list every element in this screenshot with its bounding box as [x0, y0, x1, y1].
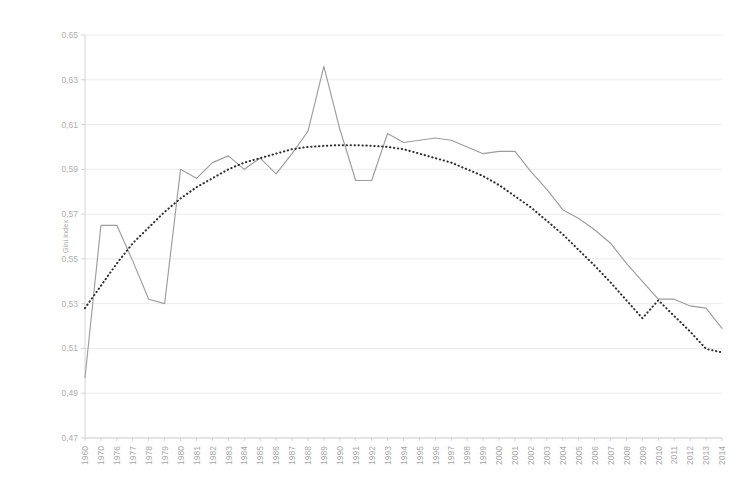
x-tick-label: 2010: [654, 446, 664, 465]
x-axis-tick-labels-group: 1960197019761977197819791980198119821983…: [80, 446, 727, 465]
x-tick-label: 1980: [176, 446, 186, 465]
x-tick-label: 1982: [208, 446, 218, 465]
x-tick-label: 2013: [701, 446, 711, 465]
x-tick-label: 2012: [685, 446, 695, 465]
x-tick-label: 1998: [462, 446, 472, 465]
x-tick-label: 1992: [367, 446, 377, 465]
x-tick-label: 2011: [669, 446, 679, 465]
x-tick-label: 2003: [542, 446, 552, 465]
x-tick-label: 1977: [128, 446, 138, 465]
y-tick-label: 0,49: [61, 388, 78, 398]
x-tick-label: 1989: [319, 446, 329, 465]
y-tick-label: 0,57: [61, 209, 78, 219]
x-tick-label: 2002: [526, 446, 536, 465]
x-tick-label: 1999: [478, 446, 488, 465]
x-tick-label: 2014: [717, 446, 727, 465]
x-tick-label: 1993: [383, 446, 393, 465]
x-tick-label: 2004: [558, 446, 568, 465]
x-tick-label: 2000: [494, 446, 504, 465]
x-tick-label: 1976: [112, 446, 122, 465]
x-tick-label: 2008: [622, 446, 632, 465]
x-tick-label: 1995: [415, 446, 425, 465]
x-tick-label: 1960: [80, 446, 90, 465]
x-tick-label: 1990: [335, 446, 345, 465]
chart-canvas: 0,650,630,610,590,570,550,530,510,490,47…: [0, 0, 737, 489]
y-tick-label: 0,61: [61, 120, 78, 130]
y-tick-label: 0,55: [61, 254, 78, 264]
x-tick-label: 2009: [638, 446, 648, 465]
y-tick-label: 0,53: [61, 299, 78, 309]
x-tick-label: 1996: [431, 446, 441, 465]
x-axis-ticks-group: [85, 438, 722, 441]
y-axis-title: Gini index: [61, 220, 70, 254]
x-tick-label: 1983: [224, 446, 234, 465]
x-tick-label: 1987: [287, 446, 297, 465]
x-tick-label: 1997: [446, 446, 456, 465]
x-tick-label: 1981: [192, 446, 202, 465]
x-tick-label: 2001: [510, 446, 520, 465]
x-tick-label: 1991: [351, 446, 361, 465]
y-tick-label: 0,63: [61, 75, 78, 85]
y-tick-label: 0,51: [61, 343, 78, 353]
gini-index-line-chart: 0,650,630,610,590,570,550,530,510,490,47…: [0, 0, 737, 489]
x-tick-label: 1978: [144, 446, 154, 465]
x-tick-label: 1994: [399, 446, 409, 465]
x-tick-label: 1984: [239, 446, 249, 465]
x-tick-label: 1986: [271, 446, 281, 465]
x-tick-label: 1970: [96, 446, 106, 465]
x-tick-label: 2005: [574, 446, 584, 465]
y-tick-label: 0,47: [61, 433, 78, 443]
x-tick-label: 2006: [590, 446, 600, 465]
x-tick-label: 1988: [303, 446, 313, 465]
y-tick-label: 0,65: [61, 30, 78, 40]
chart-background: [0, 0, 737, 489]
x-tick-label: 1979: [160, 446, 170, 465]
x-tick-label: 1985: [255, 446, 265, 465]
x-tick-label: 2007: [606, 446, 616, 465]
y-tick-label: 0,59: [61, 164, 78, 174]
